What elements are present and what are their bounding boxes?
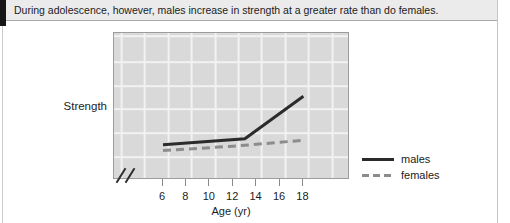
x-tick-label: 8 [182,190,188,202]
caption-bar: During adolescence, however, males incre… [6,0,497,21]
legend-item-males: males [362,152,440,166]
line-series-canvas [114,33,350,180]
x-tick-label: 18 [296,190,308,202]
males-line [163,96,303,145]
x-axis-title: Age (yr) [113,205,349,219]
x-tick-label: 16 [273,190,285,202]
x-tick-mark [208,179,209,186]
x-tick-label: 12 [226,190,238,202]
legend-label: females [401,168,440,182]
x-tick-mark [279,179,280,186]
plot-area [113,32,349,179]
females-line-swatch [362,174,394,177]
x-tick-mark [302,179,303,186]
chart-legend: malesfemales [362,152,440,184]
caption-text: During adolescence, however, males incre… [14,4,438,16]
page-left-rule [2,26,3,223]
x-tick-mark [232,179,233,186]
males-line-swatch [362,158,394,161]
y-axis-label: Strength [30,100,107,114]
x-tick-mark [185,179,186,186]
legend-item-females: females [362,168,440,182]
x-tick-label: 6 [159,190,165,202]
legend-label: males [401,152,430,166]
x-tick-mark [162,179,163,186]
x-tick-label: 10 [203,190,215,202]
page-right-rule [497,0,498,223]
x-tick-label: 14 [249,190,261,202]
x-tick-mark [255,179,256,186]
